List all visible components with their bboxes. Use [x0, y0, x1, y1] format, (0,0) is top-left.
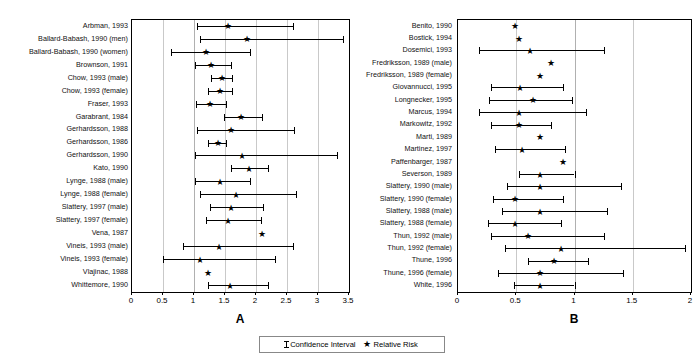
ci-lower-cap	[491, 233, 492, 240]
ci-upper-cap	[226, 101, 227, 108]
forest-row: ★	[132, 253, 349, 266]
ci-lower-cap	[197, 127, 198, 134]
study-label: Gerhardsson, 1988	[66, 125, 128, 132]
ci-lower-cap	[528, 258, 529, 265]
ci-lower-cap	[195, 62, 196, 69]
confidence-interval-bar	[200, 194, 296, 195]
ci-upper-cap	[588, 258, 589, 265]
ci-lower-cap	[519, 171, 520, 178]
study-label: Slattery, 1988 (male)	[386, 207, 452, 214]
study-label: Fredriksson, 1989 (female)	[366, 71, 452, 78]
forest-plot-panel-b: Benito, 1990Bostick, 1994Dosemici, 1993F…	[352, 0, 700, 330]
relative-risk-marker: ★	[214, 139, 222, 148]
ci-upper-cap	[232, 88, 233, 95]
ci-upper-cap	[250, 49, 251, 56]
study-label: Marti, 1989	[416, 133, 452, 140]
ci-upper-cap	[293, 243, 294, 250]
ci-lower-cap	[197, 23, 198, 30]
axis-tick	[224, 292, 225, 295]
ci-lower-cap	[210, 204, 211, 211]
ci-upper-cap	[268, 282, 269, 289]
relative-risk-marker: ★	[518, 145, 526, 154]
forest-row: ★	[132, 85, 349, 98]
ci-lower-cap	[200, 191, 201, 198]
legend-label-confidence-interval: Confidence Interval	[290, 340, 355, 349]
ci-upper-cap	[685, 245, 686, 252]
ci-lower-cap	[479, 47, 480, 54]
forest-row: ★	[458, 32, 691, 44]
study-label: Ballard-Babash, 1990 (women)	[29, 48, 128, 55]
ci-lower-cap	[498, 270, 499, 277]
ci-upper-cap	[604, 233, 605, 240]
forest-row: ★	[458, 144, 691, 156]
relative-risk-marker: ★	[202, 48, 210, 57]
relative-risk-marker: ★	[536, 182, 544, 191]
ci-upper-cap	[231, 62, 232, 69]
axis-tick-label: 1.5	[626, 297, 637, 305]
relative-risk-marker: ★	[516, 83, 524, 92]
study-label: Vlajinac, 1988	[83, 268, 128, 275]
study-label: Slattery, 1990 (male)	[386, 182, 452, 189]
relative-risk-marker: ★	[245, 164, 253, 173]
relative-risk-marker: ★	[515, 108, 523, 117]
ci-lower-cap	[493, 196, 494, 203]
forest-row: ★	[132, 266, 349, 279]
axis-tick	[131, 292, 132, 295]
study-label: Slattery, 1997 (female)	[56, 216, 128, 223]
ci-lower-cap	[224, 114, 225, 121]
forest-row: ★	[458, 45, 691, 57]
chart-legend: Confidence Interval ★ Relative Risk	[259, 336, 445, 353]
axis-tick-label: 0	[129, 297, 133, 305]
forest-row: ★	[458, 193, 691, 205]
x-axis-a	[131, 292, 348, 293]
ci-upper-cap	[586, 109, 587, 116]
forest-row: ★	[458, 243, 691, 255]
confidence-interval-bar	[493, 199, 563, 200]
ci-lower-cap	[479, 109, 480, 116]
relative-risk-marker: ★	[216, 87, 224, 96]
relative-risk-marker: ★	[550, 257, 558, 266]
relative-risk-marker: ★	[207, 61, 215, 70]
ci-lower-cap	[211, 75, 212, 82]
study-label: Dosemici, 1993	[402, 46, 452, 53]
ci-upper-cap	[563, 196, 564, 203]
confidence-interval-bar	[163, 259, 275, 260]
ci-upper-cap	[296, 191, 297, 198]
relative-risk-marker: ★	[559, 158, 567, 167]
forest-row: ★	[458, 119, 691, 131]
ci-upper-cap	[337, 152, 338, 159]
forest-plot-panel-a: Arbman, 1993Ballard-Babash, 1990 (men)Ba…	[0, 0, 352, 330]
relative-risk-marker: ★	[511, 195, 519, 204]
study-label: Benito, 1990	[412, 22, 452, 29]
axis-tick-label: 0	[455, 297, 459, 305]
confidence-interval-bar	[210, 207, 264, 208]
ci-lower-cap	[495, 146, 496, 153]
relative-risk-marker: ★	[238, 151, 246, 160]
ci-lower-cap	[208, 282, 209, 289]
axis-tick-label: 1	[571, 297, 575, 305]
ci-upper-cap	[575, 282, 576, 289]
relative-risk-marker: ★	[557, 244, 565, 253]
legend-item-confidence-interval: Confidence Interval	[286, 340, 355, 349]
study-label: Thun, 1992 (male)	[393, 232, 452, 239]
ci-upper-cap	[262, 114, 263, 121]
axis-tick-label: 3	[315, 297, 319, 305]
forest-row: ★	[458, 82, 691, 94]
study-label: Bostick, 1994	[409, 34, 452, 41]
relative-risk-marker: ★	[232, 190, 240, 199]
axis-tick-label: 0.5	[510, 297, 521, 305]
ci-lower-cap	[183, 243, 184, 250]
confidence-interval-bar	[479, 112, 586, 113]
forest-row: ★	[458, 205, 691, 217]
relative-risk-marker: ★	[243, 35, 251, 44]
axis-tick	[574, 292, 575, 295]
study-label: Kato, 1990	[93, 164, 128, 171]
ci-lower-cap	[208, 140, 209, 147]
forest-row: ★	[458, 255, 691, 267]
relative-risk-marker: ★	[258, 229, 266, 238]
ci-upper-cap	[604, 47, 605, 54]
confidence-interval-bar	[514, 285, 575, 286]
forest-row: ★	[132, 72, 349, 85]
study-label: Slattery, 1988 (female)	[380, 219, 452, 226]
relative-risk-marker: ★	[536, 71, 544, 80]
